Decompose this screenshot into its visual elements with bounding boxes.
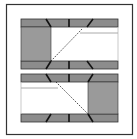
left-block: [21, 27, 51, 61]
hinge-diagram: [0, 0, 137, 139]
right-block: [88, 82, 118, 114]
